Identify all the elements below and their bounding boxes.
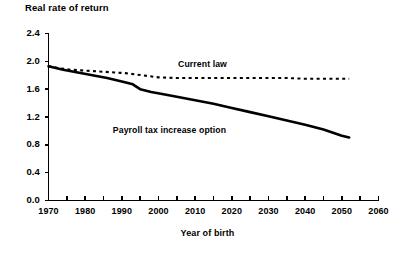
- series-label-current-law: Current law: [178, 59, 227, 69]
- chart-figure: Real rate of return 2.42.01.61.20.80.40.…: [0, 0, 415, 254]
- axes-lines: [49, 33, 379, 201]
- series-label-payroll-tax-increase-option: Payroll tax increase option: [113, 125, 226, 135]
- x-axis-title: Year of birth: [0, 228, 415, 238]
